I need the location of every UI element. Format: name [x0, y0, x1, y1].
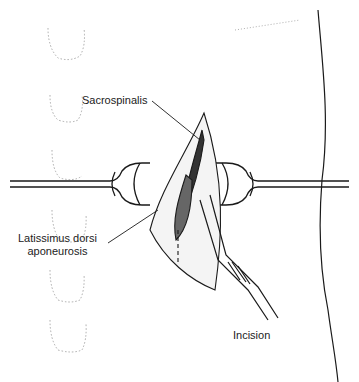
- label-incision: Incision: [233, 329, 270, 342]
- label-latissimus-line2: aponeurosis: [18, 245, 97, 258]
- body-contour: [318, 10, 338, 382]
- label-latissimus-dorsi: Latissimus dorsi aponeurosis: [18, 232, 97, 258]
- label-latissimus-line1: Latissimus dorsi: [18, 232, 97, 245]
- illustration-canvas: Sacrospinalis Latissimus dorsi aponeuros…: [0, 0, 359, 382]
- vertebrae-outlines: [48, 28, 86, 352]
- surgical-drawing: [0, 0, 359, 382]
- incision-wound: [150, 113, 221, 290]
- label-sacrospinalis: Sacrospinalis: [82, 94, 147, 107]
